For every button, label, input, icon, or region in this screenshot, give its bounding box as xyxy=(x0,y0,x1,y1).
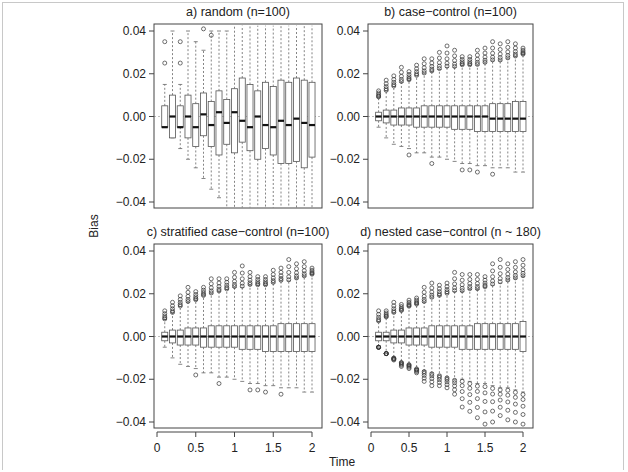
y-tick-label: 0.04 xyxy=(337,244,361,258)
boxplot-figure: a) random (n=100)0.040.020.00−0.02−0.04b… xyxy=(0,0,628,472)
y-tick-label: 0.00 xyxy=(337,330,361,344)
panel-b: b) case−control (n=100)0.040.020.00−0.02… xyxy=(330,5,533,209)
y-tick-label: −0.04 xyxy=(330,195,361,209)
box xyxy=(247,84,253,150)
y-tick-label: −0.04 xyxy=(330,415,361,429)
panel-title: b) case−control (n=100) xyxy=(384,5,517,19)
x-tick-label: 0 xyxy=(154,441,161,455)
y-tick-label: 0.02 xyxy=(337,287,361,301)
box xyxy=(216,91,222,155)
box xyxy=(262,326,268,352)
y-tick-label: −0.02 xyxy=(330,152,361,166)
panel-c: c) stratified case−control (n=100)0.040.… xyxy=(116,225,330,455)
box xyxy=(231,89,237,153)
y-tick-label: −0.02 xyxy=(116,372,147,386)
x-tick-label: 0 xyxy=(368,441,375,455)
box xyxy=(286,82,292,163)
y-tick-label: 0.04 xyxy=(123,24,147,38)
box xyxy=(270,87,276,155)
box xyxy=(520,102,526,132)
box xyxy=(239,78,245,142)
y-tick-label: −0.02 xyxy=(116,152,147,166)
x-tick-label: 1.5 xyxy=(477,441,494,455)
panel-title: c) stratified case−control (n=100) xyxy=(147,225,330,239)
y-tick-label: 0.04 xyxy=(337,24,361,38)
x-tick-label: 0.5 xyxy=(187,441,204,455)
y-tick-label: 0.02 xyxy=(123,67,147,81)
y-tick-label: −0.02 xyxy=(330,372,361,386)
y-tick-label: 0.00 xyxy=(337,110,361,124)
x-tick-label: 1 xyxy=(444,441,451,455)
x-tick-label: 1.5 xyxy=(265,441,282,455)
panel-title: d) nested case−control (n ~ 180) xyxy=(360,225,541,239)
panel-a: a) random (n=100)0.040.020.00−0.02−0.04 xyxy=(116,5,322,209)
y-tick-label: 0.02 xyxy=(123,287,147,301)
box xyxy=(262,82,268,148)
y-axis-title: Bias xyxy=(87,214,101,237)
x-tick-label: 0.5 xyxy=(401,441,418,455)
panel-title: a) random (n=100) xyxy=(186,5,290,19)
y-tick-label: 0.00 xyxy=(123,330,147,344)
y-tick-label: −0.04 xyxy=(116,195,147,209)
x-tick-label: 2 xyxy=(309,441,316,455)
panel-d: d) nested case−control (n ~ 180)0.040.02… xyxy=(330,225,541,455)
x-tick-label: 1 xyxy=(231,441,238,455)
x-tick-label: 2 xyxy=(520,441,527,455)
box xyxy=(255,91,261,159)
box xyxy=(162,106,168,127)
box xyxy=(309,82,315,157)
box xyxy=(193,104,199,147)
y-tick-label: 0.02 xyxy=(337,67,361,81)
y-tick-label: −0.04 xyxy=(116,415,147,429)
x-axis-title: Time xyxy=(329,455,356,469)
box xyxy=(482,106,488,132)
box xyxy=(474,106,480,132)
box xyxy=(177,106,183,127)
y-tick-label: 0.04 xyxy=(123,244,147,258)
y-tick-label: 0.00 xyxy=(123,110,147,124)
box xyxy=(270,326,276,352)
box xyxy=(512,102,518,132)
